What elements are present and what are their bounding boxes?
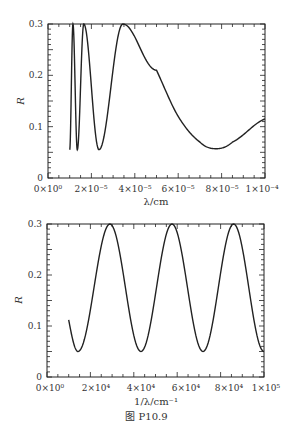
- top-ytick-0.2: 0.2: [29, 70, 43, 80]
- top-chart: 0.3 0.2 0.1 0 R 0×10⁰ 2×10⁻⁵ 4×10⁻⁵ 6×10…: [15, 19, 279, 207]
- bottom-ytick-0.3: 0.3: [28, 219, 43, 229]
- top-curve: [70, 24, 265, 150]
- bottom-ytick-0: 0: [36, 372, 42, 382]
- top-xtick-0: 0×10⁰: [34, 184, 63, 194]
- bottom-plot-frame: [47, 224, 264, 377]
- top-xtick-1: 2×10⁻⁵: [74, 184, 107, 194]
- bottom-xtick-1: 2×10⁴: [82, 383, 111, 393]
- bottom-curve: [69, 224, 264, 352]
- top-ytick-0.3: 0.3: [29, 19, 44, 29]
- top-xtick-2: 4×10⁻⁵: [118, 184, 151, 194]
- top-xtick-4: 8×10⁻⁵: [205, 184, 238, 194]
- figure: 0.3 0.2 0.1 0 R 0×10⁰ 2×10⁻⁵ 4×10⁻⁵ 6×10…: [0, 0, 293, 448]
- top-xlabel: λ/cm: [144, 196, 169, 207]
- top-xtick-5: 1×10⁻⁴: [245, 184, 278, 194]
- bottom-chart: 0.3 0.2 0.1 0 R 0×10⁰ 2×10⁴ 4×10⁴ 6×10⁴ …: [13, 219, 281, 407]
- top-ytick-0.1: 0.1: [29, 122, 43, 132]
- top-xtick-3: 6×10⁻⁵: [161, 184, 194, 194]
- bottom-ticks: [47, 224, 264, 377]
- bottom-xtick-5: 1×10⁵: [252, 383, 281, 393]
- top-ytick-0: 0: [37, 173, 43, 183]
- bottom-xtick-2: 4×10⁴: [127, 383, 156, 393]
- bottom-xlabel: 1/λ/cm⁻¹: [134, 396, 178, 407]
- bottom-ytick-0.2: 0.2: [28, 270, 42, 280]
- bottom-xtick-0: 0×10⁰: [36, 383, 65, 393]
- bottom-ylabel: R: [13, 296, 24, 305]
- bottom-xtick-3: 6×10⁴: [172, 383, 201, 393]
- figure-caption: 图 P10.9: [0, 408, 293, 423]
- bottom-xtick-4: 8×10⁴: [215, 383, 244, 393]
- top-ylabel: R: [15, 97, 26, 106]
- bottom-ytick-0.1: 0.1: [28, 321, 42, 331]
